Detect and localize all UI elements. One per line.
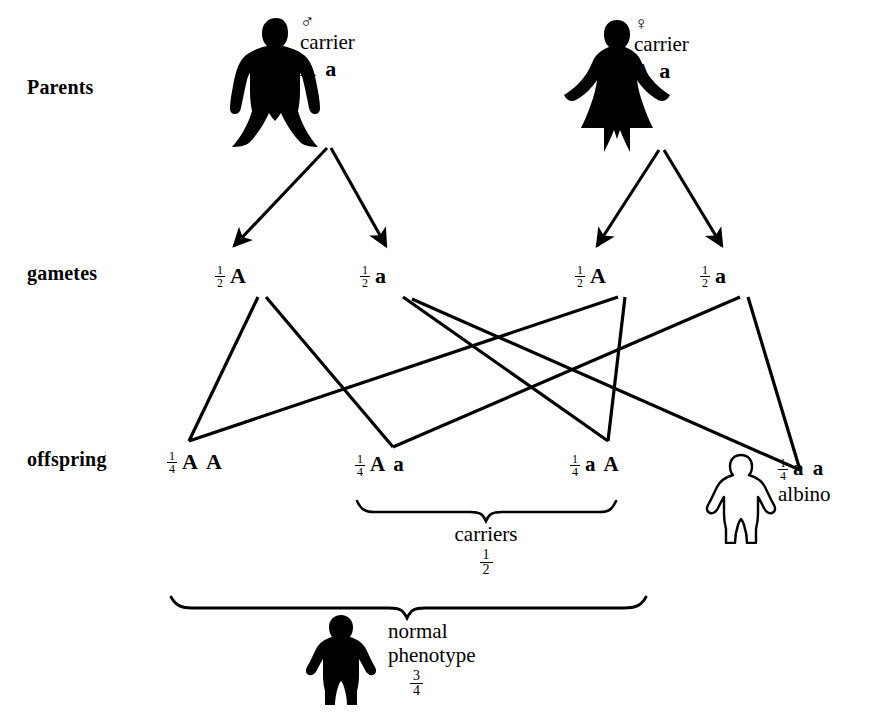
carriers-caption: carriers 1 2 [386, 523, 586, 577]
mother-genotype: A a [634, 58, 689, 83]
line-motherA-to-AA [189, 297, 618, 441]
arrow-father-to-gamete-A [234, 148, 327, 246]
gamete-allele: A [230, 265, 248, 287]
gamete-allele: a [715, 265, 729, 287]
mother-status-label: carrier [634, 33, 689, 56]
mother-gamete-arrows [597, 150, 722, 246]
line-mothera-to-Aa [393, 297, 740, 447]
offspring-AA: 1 4 A A [167, 449, 224, 474]
gamete-allele: A [590, 265, 608, 287]
fraction-one-quarter: 1 4 [778, 457, 788, 482]
row-label-parents: Parents [27, 76, 94, 99]
albino-child-figure [705, 452, 777, 544]
gamete-mother-a: 1 2 a [700, 263, 729, 288]
offspring-aa: 1 4 a a [778, 456, 831, 481]
child-filled-silhouette-icon [305, 613, 377, 705]
albino-label: albino [778, 483, 831, 507]
offspring-Aa: 1 4 A a [355, 452, 406, 477]
fraction-one-quarter: 1 4 [570, 453, 580, 478]
albino-offspring-meta: 1 4 a a albino [778, 456, 831, 507]
arrow-mother-to-gamete-a [664, 150, 722, 246]
line-fatherA-to-AA [189, 297, 258, 441]
child-outline-silhouette-icon [705, 452, 777, 544]
line-mothera-to-aa [748, 297, 800, 470]
normal-label-line1: normal [388, 620, 475, 644]
normal-phenotype-fraction: 3 4 [410, 669, 423, 699]
row-label-offspring: offspring [27, 448, 107, 471]
arrow-father-to-gamete-a [331, 148, 386, 246]
father-gamete-arrows [234, 148, 386, 246]
fraction-one-half: 1 2 [700, 264, 710, 289]
normal-phenotype-caption: normal phenotype 3 4 [388, 620, 475, 699]
female-sex-symbol: ♀ [634, 14, 689, 33]
line-fathera-to-aA [403, 297, 608, 441]
offspring-aA: 1 4 a A [570, 452, 621, 477]
fraction-one-half: 1 2 [360, 264, 370, 289]
fraction-one-half: 1 2 [215, 264, 225, 289]
gamete-father-a: 1 2 a [360, 263, 389, 288]
fraction-one-quarter: 1 4 [167, 450, 177, 475]
fraction-one-quarter: 1 4 [355, 453, 365, 478]
gamete-allele: a [375, 265, 389, 287]
carriers-fraction: 1 2 [480, 548, 493, 578]
carriers-brace [357, 501, 616, 521]
carriers-label: carriers [386, 523, 586, 547]
line-fatherA-to-Aa [266, 297, 393, 447]
arrow-mother-to-gamete-A [597, 150, 659, 246]
line-motherA-to-aA [608, 297, 625, 441]
male-sex-symbol: ♂ [300, 12, 355, 31]
offspring-genotype: A A [182, 451, 224, 473]
offspring-genotype: A a [370, 454, 406, 475]
offspring-genotype: a a [793, 458, 825, 479]
father-genotype: A a [300, 56, 355, 81]
gamete-crossing-lines [189, 297, 800, 470]
fraction-one-half: 1 2 [575, 264, 585, 289]
father-status-label: carrier [300, 31, 355, 54]
diagram-vector-layer [0, 0, 877, 717]
genetics-cross-diagram: Parents gametes offspring ♂ carrier A a … [0, 0, 877, 717]
normal-phenotype-brace [171, 597, 646, 618]
row-label-gametes: gametes [27, 262, 97, 285]
mother-meta: ♀ carrier A a [634, 14, 689, 83]
offspring-genotype: a A [585, 454, 621, 475]
normal-phenotype-figure [305, 613, 377, 705]
father-meta: ♂ carrier A a [300, 12, 355, 81]
line-fathera-to-aa [412, 299, 800, 470]
normal-label-line2: phenotype [388, 644, 475, 668]
gamete-father-A: 1 2 A [215, 263, 248, 288]
gamete-mother-A: 1 2 A [575, 263, 608, 288]
